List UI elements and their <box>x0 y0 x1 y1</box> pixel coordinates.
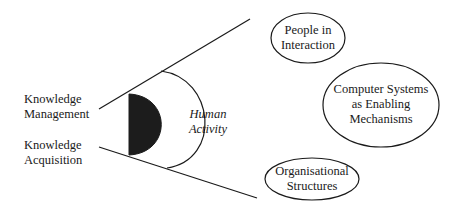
human-activity-line-2: Activity <box>186 122 230 137</box>
human-activity-label: Human Activity <box>186 107 230 137</box>
knowledge-management-line-2: Management <box>24 107 89 122</box>
knowledge-acquisition-line-1: Knowledge <box>24 138 82 153</box>
organisation-line-1: Organisational <box>265 164 359 179</box>
people-line-2: Interaction <box>271 38 345 53</box>
knowledge-management-line-1: Knowledge <box>24 92 89 107</box>
knowledge-management-label: Knowledge Management <box>24 92 89 122</box>
computer-systems-label: Computer Systems as Enabling Mechanisms <box>323 82 439 127</box>
computer-line-3: Mechanisms <box>323 112 439 127</box>
computer-line-1: Computer Systems <box>323 82 439 97</box>
human-activity-line-1: Human <box>186 107 230 122</box>
people-in-interaction-label: People in Interaction <box>271 23 345 53</box>
upper-cone-line <box>99 19 250 109</box>
lower-cone-line <box>99 147 257 198</box>
computer-line-2: as Enabling <box>323 97 439 112</box>
people-line-1: People in <box>271 23 345 38</box>
organisation-line-2: Structures <box>265 179 359 194</box>
knowledge-acquisition-label: Knowledge Acquisition <box>24 138 82 168</box>
knowledge-core-half-disc <box>129 94 161 155</box>
organisational-structures-label: Organisational Structures <box>265 164 359 194</box>
knowledge-acquisition-line-2: Acquisition <box>24 153 82 168</box>
